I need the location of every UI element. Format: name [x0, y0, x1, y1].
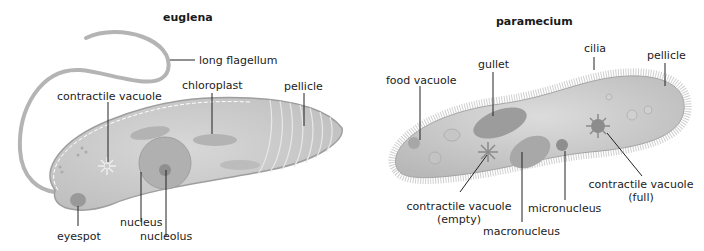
euglena-illustration — [20, 32, 342, 210]
paramecium-title: paramecium — [496, 15, 573, 28]
label-contractile-vacuole-empty: contractile vacuole (empty) — [404, 200, 514, 226]
label-food-vacuole: food vacuole — [386, 74, 457, 87]
label-euglena-contractile-vacuole: contractile vacuole — [57, 90, 162, 103]
label-euglena-pellicle: pellicle — [284, 80, 323, 93]
label-eyespot: eyespot — [57, 230, 101, 243]
label-contractile-vacuole-full: contractile vacuole (full) — [586, 178, 696, 204]
paramecium-illustration — [392, 72, 688, 181]
label-macronucleus: macronucleus — [483, 225, 560, 238]
paramecium-contractile-vacuole-empty — [478, 142, 498, 162]
label-long-flagellum: long flagellum — [199, 54, 277, 67]
euglena-body — [50, 98, 342, 210]
label-nucleus: nucleus — [120, 216, 163, 229]
label-chloroplast: chloroplast — [182, 79, 243, 92]
label-paramecium-pellicle: pellicle — [647, 49, 686, 62]
label-cilia: cilia — [584, 42, 606, 55]
euglena-title: euglena — [163, 11, 213, 24]
label-gullet: gullet — [478, 58, 509, 71]
label-nucleolus: nucleolus — [140, 230, 192, 243]
